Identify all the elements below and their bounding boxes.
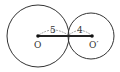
center-dot-o	[36, 34, 40, 38]
radius-label-5: 5	[50, 25, 56, 35]
center-label-o: O	[34, 40, 41, 50]
radius-label-4: 4	[77, 25, 83, 35]
center-dot-o-prime	[90, 34, 94, 38]
tangent-circles-diagram: 5 4 O O′	[0, 0, 120, 72]
center-label-o-prime: O′	[89, 40, 98, 50]
